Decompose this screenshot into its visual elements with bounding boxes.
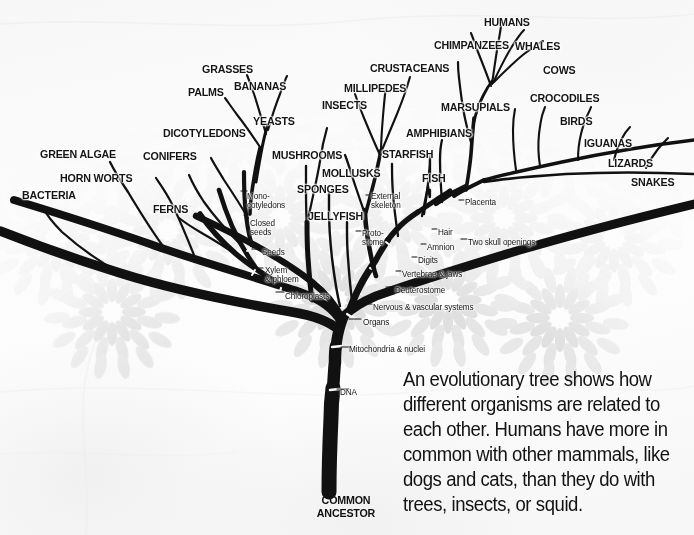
taxon-label-bananas: BANANAS [234, 81, 286, 93]
taxon-label-iguanas: IGUANAS [584, 138, 632, 150]
trait-label-nervous-vascular-systems: Nervous & vascular systems [373, 303, 474, 312]
taxon-label-grasses: GRASSES [202, 64, 253, 76]
taxon-label-humans: HUMANS [484, 17, 530, 29]
evolutionary-tree-figure: BACTERIAGREEN ALGAEHORN WORTSFERNSCONIFE… [0, 0, 694, 535]
branch-fungi [307, 222, 312, 300]
taxon-label-conifers: CONIFERS [143, 151, 197, 163]
branch-amphibians [440, 140, 442, 202]
taxon-label-horn-worts: HORN WORTS [60, 173, 132, 185]
trait-label-vertebrae-jaws: Vertebrae & jaws [402, 270, 462, 279]
taxon-label-lizards: LIZARDS [608, 158, 653, 170]
common-ancestor-label: COMMON ANCESTOR [309, 494, 383, 519]
taxon-label-bacteria: BACTERIA [22, 190, 76, 202]
taxon-label-crustaceans: CRUSTACEANS [370, 63, 449, 75]
common-ancestor-line1: COMMON [322, 494, 371, 506]
branch-mushrooms [306, 166, 307, 226]
branch-whales [493, 30, 524, 83]
taxon-label-cows: COWS [543, 65, 576, 77]
taxon-label-millipedes: MILLIPEDES [344, 83, 406, 95]
branch-jellyfish [347, 222, 352, 300]
taxon-label-insects: INSECTS [322, 100, 367, 112]
trait-label-mitochondria-nuclei: Mitochondria & nuclei [349, 345, 425, 354]
trait-label-organs: Organs [363, 318, 389, 327]
taxon-label-amphibians: AMPHIBIANS [406, 128, 472, 140]
taxon-label-green-algae: GREEN ALGAE [40, 149, 116, 161]
taxon-label-dicotyledons: DICOTYLEDONS [163, 128, 246, 140]
trait-label-digits: Digits [418, 256, 438, 265]
trait-label-seeds: Seeds [262, 248, 285, 257]
trait-label-closed-seeds: Closedseeds [250, 219, 275, 237]
taxon-label-snakes: SNAKES [631, 177, 674, 189]
taxon-label-yeasts: YEASTS [253, 116, 295, 128]
trait-label-amnion: Amnion [427, 243, 454, 252]
taxon-label-marsupials: MARSUPIALS [441, 102, 510, 114]
taxon-label-fish: FISH [422, 173, 446, 185]
taxon-label-palms: PALMS [188, 87, 224, 99]
common-ancestor-line2: ANCESTOR [317, 507, 375, 519]
trait-label-xylem-phloem: Xylem& phloem [265, 266, 299, 284]
branch-crocodiles [513, 109, 516, 170]
trait-label-chloroplasts: Chloroplasts [285, 292, 329, 301]
trait-label-mono-cotyledons: Mono-cotyledons [247, 192, 285, 210]
trunk [329, 317, 343, 492]
taxon-label-mushrooms: MUSHROOMS [272, 150, 342, 162]
trait-label-placenta: Placenta [465, 198, 496, 207]
taxon-label-mollusks: MOLLUSKS [322, 168, 381, 180]
taxon-label-ferns: FERNS [153, 204, 188, 216]
trait-label-hair: Hair [438, 228, 453, 237]
trait-label-external-skeleton: Externalskeleton [371, 192, 401, 210]
taxon-label-sponges: SPONGES [297, 184, 349, 196]
trait-label-two-skull-openings: Two skull openings [468, 238, 535, 247]
taxon-label-starfish: STARFISH [382, 149, 433, 161]
figure-caption: An evolutionary tree shows how different… [403, 367, 674, 517]
trait-label-proto-stome: Proto-stome [362, 229, 384, 247]
taxon-label-whales: WHALES [515, 41, 560, 53]
taxon-label-birds: BIRDS [560, 116, 592, 128]
taxon-label-jellyfish: JELLYFISH [308, 211, 363, 223]
taxon-label-crocodiles: CROCODILES [530, 93, 599, 105]
taxon-label-chimpanzees: CHIMPANZEES [434, 40, 509, 52]
branch-birds [538, 107, 545, 166]
trait-label-deuterostome: Deuterostome [395, 286, 445, 295]
trait-label-dna: DNA [340, 388, 357, 397]
